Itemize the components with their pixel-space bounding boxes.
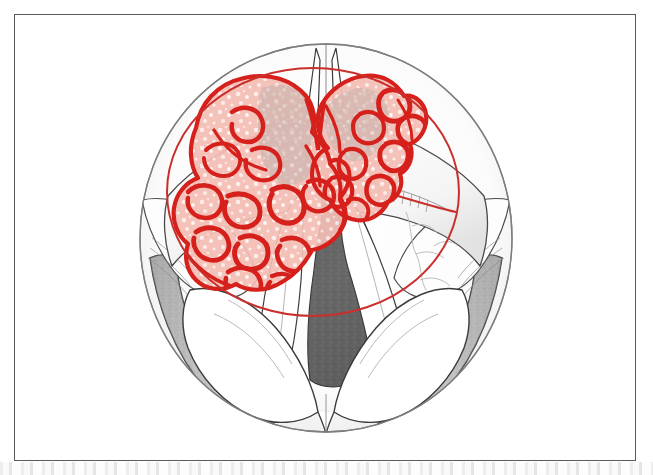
laryngoscopic-illustration — [0, 0, 653, 475]
figure-root: Laryngoscopic view of the larynx with vo… — [0, 0, 653, 475]
scan-artifact-band — [0, 462, 653, 475]
